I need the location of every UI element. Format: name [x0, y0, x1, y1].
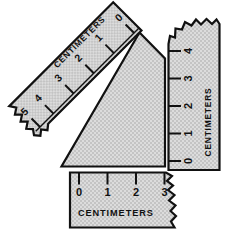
figure-canvas: 0 1 2 3 4 CENTIMETERS 0 1: [0, 0, 234, 244]
right-ruler-tick-0: 0: [182, 158, 194, 164]
right-ruler-tick-4: 4: [182, 47, 194, 54]
rulers-illustration: 0 1 2 3 4 CENTIMETERS 0 1: [0, 0, 234, 244]
right-ruler-tick-3: 3: [182, 75, 194, 81]
bottom-ruler-tick-3: 3: [161, 186, 167, 198]
right-ruler-unit-label: CENTIMETERS: [203, 88, 213, 157]
right-ruler[interactable]: 0 1 2 3 4 CENTIMETERS: [169, 19, 220, 170]
bottom-ruler-tick-2: 2: [133, 186, 139, 198]
right-ruler-tick-2: 2: [182, 103, 194, 109]
bottom-ruler[interactable]: 0 1 2 3 CENTIMETERS: [70, 173, 176, 228]
bottom-ruler-unit-label: CENTIMETERS: [78, 208, 154, 218]
bottom-ruler-tick-0: 0: [76, 186, 82, 198]
right-ruler-tick-1: 1: [182, 130, 194, 136]
bottom-ruler-tick-1: 1: [104, 186, 110, 198]
